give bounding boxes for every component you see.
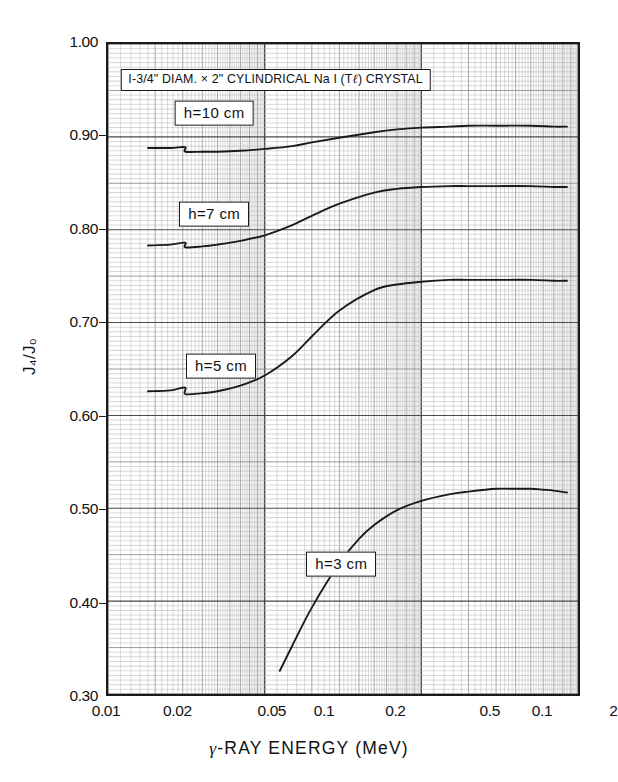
curve-h5cm-seg0 — [148, 280, 567, 395]
curves-layer — [108, 44, 578, 694]
x-axis-title: γ-RAY ENERGY (MeV) — [0, 738, 618, 759]
y-tick-label-1.00: 1.00 — [69, 33, 98, 51]
x-tick-label-0.05: 0.05 — [258, 702, 287, 720]
curve-h7cm-seg0 — [148, 186, 567, 248]
curve-h10cm-seg0 — [148, 126, 567, 152]
figure-root: 1.00 0.90 0.80 0.70 0.60 0.50 0.40 0.30 … — [0, 0, 618, 782]
x-tick-label-0.02: 0.02 — [163, 702, 192, 720]
x-tick-label-1: 0.1 — [532, 702, 552, 720]
plot-area: I-3/4" DIAM. × 2" CYLINDRICAL Na I (Tℓ) … — [106, 42, 580, 696]
y-tick-label-0.40: 0.40 — [69, 594, 98, 612]
y-tick-label-0.60: 0.60 — [69, 407, 98, 425]
y-tick-label-0.90: 0.90 — [69, 126, 98, 144]
y-axis-title: J₄/J₀ — [20, 338, 40, 375]
y-axis-tick-labels: 1.00 0.90 0.80 0.70 0.60 0.50 0.40 0.30 — [0, 0, 106, 782]
x-tick-label-0.5: 0.5 — [480, 702, 500, 720]
curve-h3cm-seg0 — [280, 489, 567, 671]
x-tick-label-0.01: 0.01 — [92, 702, 121, 720]
x-tick-label-0.2: 0.2 — [385, 702, 405, 720]
y-tick-label-0.70: 0.70 — [69, 313, 98, 331]
y-tick-label-0.50: 0.50 — [69, 500, 98, 518]
x-axis-title-rest: -RAY ENERGY (MeV) — [217, 738, 409, 758]
x-tick-label-0.1: 0.1 — [314, 702, 334, 720]
x-tick-label-2: 2 — [609, 702, 617, 720]
y-tick-label-0.80: 0.80 — [69, 220, 98, 238]
